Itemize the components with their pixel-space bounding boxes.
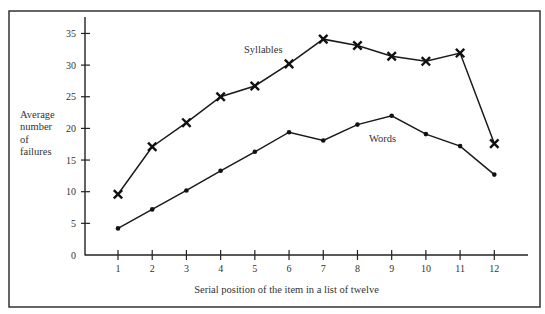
x-marker-icon (285, 60, 293, 68)
x-axis-label: Serial position of the item in a list of… (0, 284, 545, 295)
y-tick-label: 25 (66, 91, 76, 102)
x-tick-label: 12 (489, 263, 499, 274)
y-tick-label: 35 (66, 28, 76, 39)
series-words (116, 113, 497, 230)
dot-marker-icon (492, 172, 497, 177)
annotations: SyllablesWords (244, 44, 396, 144)
x-tick-label: 5 (252, 263, 257, 274)
x-tick-label: 3 (184, 263, 189, 274)
x-marker-icon (251, 82, 259, 90)
x-tick-label: 6 (287, 263, 292, 274)
series-line-syllables (118, 39, 494, 194)
x-marker-icon (182, 119, 190, 127)
series-syllables (114, 35, 499, 198)
dot-marker-icon (253, 150, 258, 155)
y-tick-label: 10 (66, 186, 76, 197)
x-tick-label: 9 (389, 263, 394, 274)
x-tick-label: 1 (116, 263, 121, 274)
dot-marker-icon (424, 132, 429, 137)
x-marker-icon (216, 93, 224, 101)
y-axis-label: Average number of failures (20, 109, 55, 158)
x-marker-icon (148, 143, 156, 151)
y-axis-label-line: number (20, 121, 55, 133)
series-line-words (118, 116, 494, 229)
annotation-syllables: Syllables (244, 44, 283, 55)
y-axis-label-line: failures (20, 146, 55, 158)
dot-marker-icon (150, 207, 155, 212)
y-tick-label: 30 (66, 60, 76, 71)
y-axis-label-line: Average (20, 109, 55, 121)
x-tick-label: 11 (455, 263, 465, 274)
dot-marker-icon (389, 113, 394, 118)
y-tick-label: 20 (66, 123, 76, 134)
x-marker-icon (490, 139, 498, 147)
series-layer (114, 35, 499, 231)
dot-marker-icon (287, 130, 292, 135)
y-axis-label-line: of (20, 134, 55, 146)
x-marker-icon (114, 190, 122, 198)
dot-marker-icon (355, 122, 360, 127)
dot-marker-icon (321, 138, 326, 143)
x-tick-label: 7 (321, 263, 326, 274)
dot-marker-icon (116, 226, 121, 231)
x-tick-label: 10 (421, 263, 431, 274)
y-tick-label: 15 (66, 155, 76, 166)
annotation-words: Words (369, 133, 396, 144)
chart-canvas: 05101520253035123456789101112 SyllablesW… (0, 0, 545, 314)
dot-marker-icon (458, 144, 463, 149)
x-tick-label: 2 (150, 263, 155, 274)
dot-marker-icon (218, 169, 223, 174)
y-tick-label: 5 (71, 218, 76, 229)
x-tick-label: 4 (218, 263, 223, 274)
x-tick-label: 8 (355, 263, 360, 274)
y-tick-label: 0 (71, 250, 76, 261)
dot-marker-icon (184, 188, 189, 193)
